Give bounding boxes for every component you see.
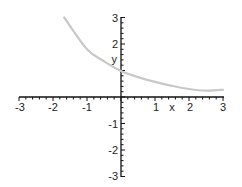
y-tick-label: -2 bbox=[108, 144, 118, 156]
data-curve bbox=[64, 18, 223, 91]
x-tick-label: 3 bbox=[220, 101, 226, 113]
x-tick-label: 1 bbox=[153, 101, 159, 113]
chart: -3 -2 -1 1 x 2 3 3 2 y -1 -2 -3 bbox=[0, 0, 242, 187]
y-tick-label: 3 bbox=[112, 12, 118, 24]
x-tick-label: -1 bbox=[82, 101, 92, 113]
x-tick-label: 2 bbox=[187, 101, 193, 113]
x-axis-label: x bbox=[169, 101, 175, 113]
y-tick-label: -1 bbox=[108, 118, 118, 130]
y-axis-label: y bbox=[112, 53, 118, 65]
x-tick-label: -3 bbox=[15, 101, 25, 113]
y-tick-label: 2 bbox=[112, 38, 118, 50]
x-tick-label: -2 bbox=[48, 101, 58, 113]
y-tick-label: -3 bbox=[108, 170, 118, 182]
